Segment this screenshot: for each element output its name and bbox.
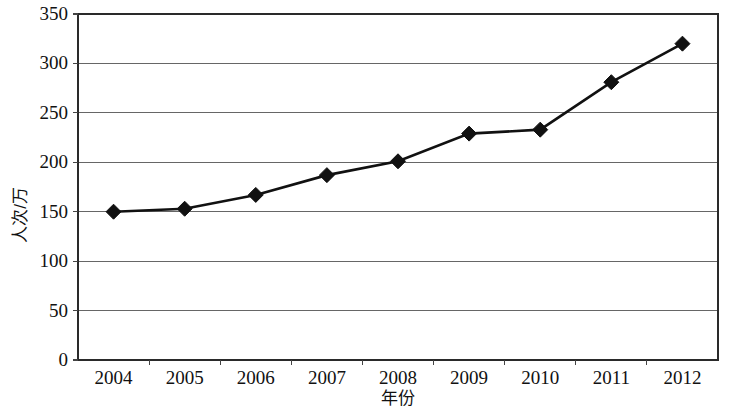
line-chart: 050100150200250300350 200420052006200720… — [0, 0, 736, 414]
x-axis-tick-labels: 200420052006200720082009201020112012 — [95, 367, 702, 388]
x-tick-label: 2006 — [237, 367, 275, 388]
y-tick-label: 200 — [40, 151, 69, 172]
y-tick-label: 250 — [40, 102, 69, 123]
y-axis-title: 人次/万 — [11, 187, 30, 243]
y-tick-label: 150 — [40, 201, 69, 222]
x-tick-label: 2011 — [593, 367, 630, 388]
chart-canvas: 050100150200250300350 200420052006200720… — [0, 0, 736, 414]
x-tick-label: 2010 — [521, 367, 559, 388]
x-tick-label: 2004 — [95, 367, 134, 388]
x-axis-title: 年份 — [381, 389, 415, 408]
x-tick-label: 2007 — [308, 367, 346, 388]
y-tick-label: 0 — [59, 349, 69, 370]
x-tick-label: 2008 — [379, 367, 417, 388]
y-tick-label: 350 — [40, 3, 69, 24]
y-tick-label: 50 — [49, 300, 68, 321]
x-tick-label: 2005 — [166, 367, 204, 388]
y-tick-label: 300 — [40, 52, 69, 73]
x-tick-label: 2012 — [663, 367, 701, 388]
y-tick-label: 100 — [40, 250, 69, 271]
x-tick-label: 2009 — [450, 367, 488, 388]
